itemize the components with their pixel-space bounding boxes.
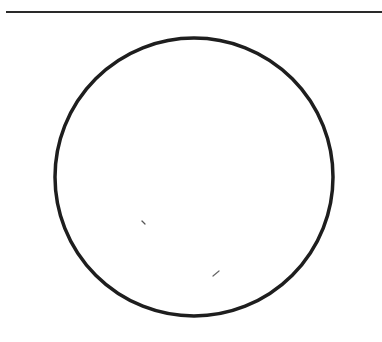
- circle-shape: [55, 38, 333, 316]
- diagram-canvas: [0, 0, 382, 342]
- scan-marks: [142, 221, 219, 276]
- scan-mark: [142, 221, 145, 224]
- scan-mark: [213, 271, 219, 276]
